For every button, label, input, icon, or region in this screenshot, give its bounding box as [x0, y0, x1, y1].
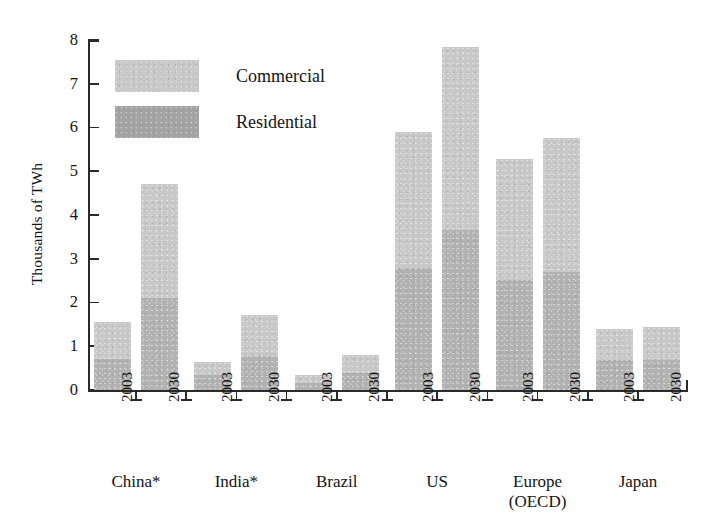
y-axis-tick-mark — [88, 83, 99, 85]
group-label-line1: Brazil — [316, 472, 358, 491]
x-axis-year-label: 2030 — [467, 372, 484, 402]
group-label-line1: Europe — [513, 472, 562, 491]
bar-segment-commercial — [395, 132, 432, 268]
y-axis-tick-label: 3 — [70, 249, 78, 269]
y-axis-tick-mark — [88, 170, 99, 172]
y-axis-tick-label: 6 — [70, 117, 78, 137]
y-axis-title: Thousands of TWh — [28, 124, 46, 324]
y-axis-tick-label: 8 — [70, 30, 78, 50]
x-axis-year-label: 2030 — [567, 372, 584, 402]
group-label-line1: Japan — [619, 472, 658, 491]
bar-segment-residential — [442, 230, 479, 390]
bar — [141, 184, 178, 390]
bar-segment-commercial — [442, 47, 479, 231]
group-label-line1: India* — [215, 472, 258, 491]
x-axis-year-label: 2030 — [166, 372, 183, 402]
y-axis-tick-mark — [88, 302, 99, 304]
legend-swatch-commercial — [115, 60, 199, 92]
bar-segment-commercial — [241, 315, 278, 357]
y-axis-tick: 5 — [88, 170, 99, 172]
y-axis-tick-mark — [88, 127, 99, 129]
bar-segment-commercial — [596, 329, 633, 361]
y-axis-tick: 7 — [88, 83, 99, 85]
y-axis-tick-mark — [88, 39, 99, 41]
legend-item-residential: Residential — [115, 103, 325, 141]
bar — [496, 159, 533, 390]
y-axis-tick-label: 1 — [70, 336, 78, 356]
x-axis-year-label: 2030 — [366, 372, 383, 402]
y-axis-tick-mark — [88, 214, 99, 216]
legend-swatch-residential — [115, 106, 199, 138]
legend-label-commercial: Commercial — [236, 66, 325, 87]
bar-segment-commercial — [342, 355, 379, 373]
y-axis-tick-label: 0 — [70, 380, 78, 400]
group-label-line1: US — [426, 472, 448, 491]
y-axis-tick: 2 — [88, 302, 99, 304]
y-axis-tick-label: 4 — [70, 205, 78, 225]
group-label-line2: (OECD) — [478, 492, 598, 512]
y-axis-tick: 4 — [88, 214, 99, 216]
legend-label-residential: Residential — [236, 112, 317, 133]
y-axis-tick-label: 7 — [70, 74, 78, 94]
x-axis-year-label: 2030 — [668, 372, 685, 402]
legend-item-commercial: Commercial — [115, 57, 325, 95]
bar-segment-commercial — [141, 184, 178, 298]
bar-segment-commercial — [94, 322, 131, 359]
bar — [543, 138, 580, 390]
y-axis-tick: 8 — [88, 39, 99, 41]
y-axis-tick-mark — [88, 258, 99, 260]
bar — [442, 47, 479, 390]
x-axis-tick-foot — [382, 399, 393, 401]
x-axis-right-cap — [686, 380, 688, 391]
x-axis-year-label: 2003 — [219, 372, 236, 402]
x-axis-year-label: 2030 — [266, 372, 283, 402]
bar — [395, 132, 432, 390]
x-axis-group-label: Japan — [578, 472, 698, 492]
x-axis-year-label: 2003 — [319, 372, 336, 402]
y-axis-tick-label: 5 — [70, 161, 78, 181]
x-axis-year-label: 2003 — [420, 372, 437, 402]
x-axis-year-label: 2003 — [621, 372, 638, 402]
legend: Commercial Residential — [115, 57, 325, 149]
x-axis-year-label: 2003 — [520, 372, 537, 402]
bar-chart: Thousands of TWh 012345678 20032030China… — [0, 0, 716, 518]
y-axis-tick: 6 — [88, 127, 99, 129]
y-axis-tick: 3 — [88, 258, 99, 260]
bar-segment-commercial — [496, 159, 533, 279]
y-axis-tick-label: 2 — [70, 292, 78, 312]
x-axis-year-label: 2003 — [119, 372, 136, 402]
group-label-line1: China* — [111, 472, 160, 491]
bar-segment-commercial — [543, 138, 580, 271]
bar-segment-commercial — [643, 327, 680, 360]
